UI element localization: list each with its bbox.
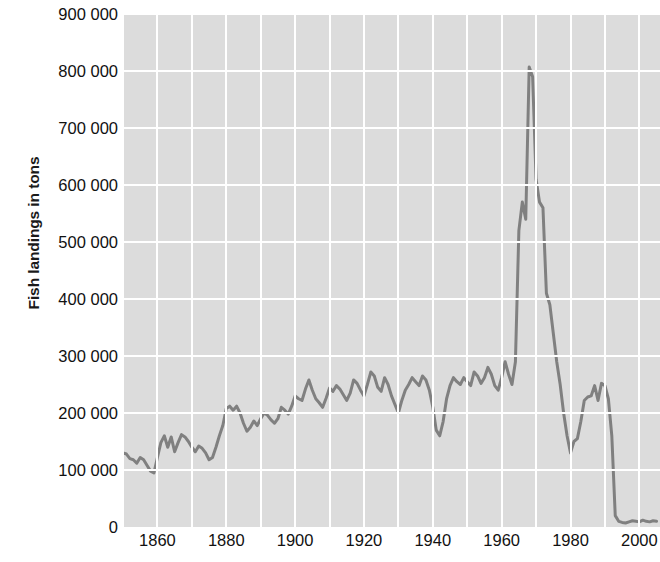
gridline-vertical bbox=[501, 14, 503, 527]
gridline-horizontal bbox=[123, 298, 660, 300]
x-axis-tick-label: 1980 bbox=[536, 531, 606, 549]
y-axis-tick-label: 0 bbox=[34, 519, 118, 536]
fish-landings-chart: Fish landings in tons 900 000800 000700 … bbox=[0, 0, 660, 562]
y-axis-tick-label: 900 000 bbox=[34, 6, 118, 23]
gridline-vertical bbox=[432, 14, 434, 527]
y-axis-tick-label: 700 000 bbox=[34, 120, 118, 137]
y-axis-tick-label: 300 000 bbox=[34, 348, 118, 365]
y-axis-tick-label: 200 000 bbox=[34, 405, 118, 422]
y-axis-tick-label: 800 000 bbox=[34, 63, 118, 80]
gridline-vertical bbox=[225, 14, 227, 527]
gridline-vertical bbox=[638, 14, 640, 527]
gridline-horizontal bbox=[123, 127, 660, 129]
x-axis-tick-label: 2000 bbox=[604, 531, 660, 549]
gridline-vertical bbox=[191, 14, 193, 527]
gridline-horizontal bbox=[123, 469, 660, 471]
x-axis-tick-label: 1920 bbox=[329, 531, 399, 549]
y-axis-tick-labels: 900 000800 000700 000600 000500 000400 0… bbox=[30, 0, 118, 562]
x-axis-tick-label: 1900 bbox=[260, 531, 330, 549]
gridline-horizontal bbox=[123, 70, 660, 72]
gridline-horizontal bbox=[123, 412, 660, 414]
plot-area bbox=[123, 14, 660, 527]
gridline-vertical bbox=[397, 14, 399, 527]
gridline-vertical bbox=[294, 14, 296, 527]
gridline-vertical bbox=[604, 14, 606, 527]
gridline-vertical bbox=[260, 14, 262, 527]
gridline-vertical bbox=[466, 14, 468, 527]
x-axis-tick-label: 1940 bbox=[398, 531, 468, 549]
gridline-vertical bbox=[329, 14, 331, 527]
y-axis-tick-label: 500 000 bbox=[34, 234, 118, 251]
gridline-horizontal bbox=[123, 184, 660, 186]
gridline-vertical bbox=[156, 14, 158, 527]
gridline-vertical bbox=[123, 14, 124, 527]
y-axis-tick-label: 400 000 bbox=[34, 291, 118, 308]
gridline-horizontal bbox=[123, 241, 660, 243]
y-axis-tick-label: 600 000 bbox=[34, 177, 118, 194]
x-axis-tick-label: 1860 bbox=[122, 531, 192, 549]
gridline-horizontal bbox=[123, 14, 660, 15]
x-axis-tick-label: 1880 bbox=[191, 531, 261, 549]
x-axis-tick-label: 1960 bbox=[467, 531, 537, 549]
gridline-vertical bbox=[535, 14, 537, 527]
series-line-fish-landings bbox=[123, 14, 660, 527]
y-axis-tick-label: 100 000 bbox=[34, 462, 118, 479]
gridline-vertical bbox=[570, 14, 572, 527]
gridline-horizontal bbox=[123, 355, 660, 357]
gridline-vertical bbox=[363, 14, 365, 527]
x-axis-tick-labels: 18601880190019201940196019802000 bbox=[123, 531, 660, 561]
